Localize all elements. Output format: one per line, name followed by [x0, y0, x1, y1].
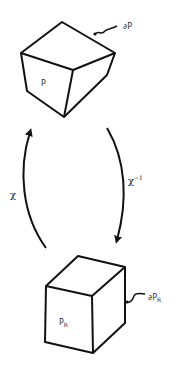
diagram-canvas: P ∂P χ χ−1 PR ∂PR: [0, 0, 176, 368]
top-polyhedron: [21, 22, 115, 117]
bottom-boundary-pointer-icon: [127, 293, 145, 302]
bottom-boundary-label: ∂PR: [148, 293, 161, 303]
bottom-cube-front-face: [45, 286, 93, 353]
bottom-boundary-label-base: ∂P: [148, 293, 157, 302]
top-boundary-label: ∂P: [123, 22, 132, 31]
chi-inverse-arrow: [107, 128, 124, 240]
top-boundary-pointer-icon: [95, 26, 117, 34]
chi-arrow: [23, 132, 46, 248]
bottom-cube-label: PR: [59, 318, 68, 328]
top-polyhedron-left-face: [21, 53, 73, 117]
top-polyhedron-top-face: [21, 22, 115, 70]
bottom-boundary-label-sub: R: [157, 296, 161, 303]
top-boundary-pointer-dot: [93, 32, 96, 35]
bottom-boundary-pointer-dot: [125, 300, 128, 303]
top-polyhedron-label: P: [41, 79, 46, 88]
chi-inverse-arrow-label: χ−1: [128, 174, 143, 186]
bottom-cube: [45, 256, 125, 353]
bottom-cube-label-sub: R: [64, 321, 68, 328]
bottom-cube-top-face: [46, 256, 125, 296]
chi-arrow-label: χ: [10, 189, 16, 200]
chi-inverse-sup: −1: [134, 174, 143, 181]
